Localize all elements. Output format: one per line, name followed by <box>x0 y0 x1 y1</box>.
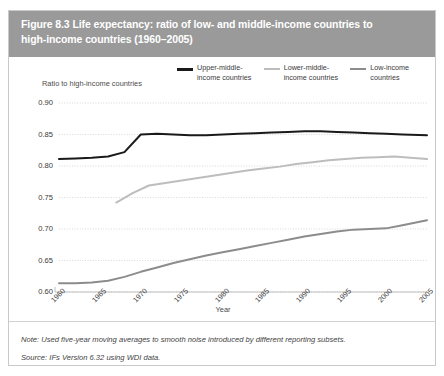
y-tick-label: 0.60 <box>27 287 53 296</box>
gridlines <box>59 103 427 292</box>
figure-footer: Note: Used five-year moving averages to … <box>9 323 435 366</box>
figure-source: Source: IFs Version 6.32 using WDI data. <box>21 349 423 366</box>
plot-area: 0.900.850.800.750.700.650.60 19601965197… <box>9 57 436 322</box>
figure-title-line-2: high-income countries (1960–2005) <box>21 32 423 47</box>
x-axis-title: Year <box>9 305 436 314</box>
figure-title-bar: Figure 8.3 Life expectancy: ratio of low… <box>9 11 435 57</box>
y-tick-label: 0.65 <box>27 256 53 265</box>
chart-area: Upper-middle- income countries Lower-mid… <box>9 57 435 322</box>
figure-container: Figure 8.3 Life expectancy: ratio of low… <box>8 10 436 366</box>
y-tick-label: 0.80 <box>27 161 53 170</box>
y-tick-label: 0.75 <box>27 193 53 202</box>
figure-note: Note: Used five-year moving averages to … <box>21 331 423 349</box>
series-line-low-income <box>59 220 427 283</box>
axis-lines <box>55 287 427 292</box>
y-tick-label: 0.70 <box>27 224 53 233</box>
series-line-upper-middle <box>59 131 427 159</box>
y-tick-label: 0.85 <box>27 130 53 139</box>
plot-svg <box>9 57 436 322</box>
figure-title-line-1: Figure 8.3 Life expectancy: ratio of low… <box>21 17 423 32</box>
y-tick-label: 0.90 <box>27 98 53 107</box>
series-line-lower-middle <box>116 157 427 203</box>
